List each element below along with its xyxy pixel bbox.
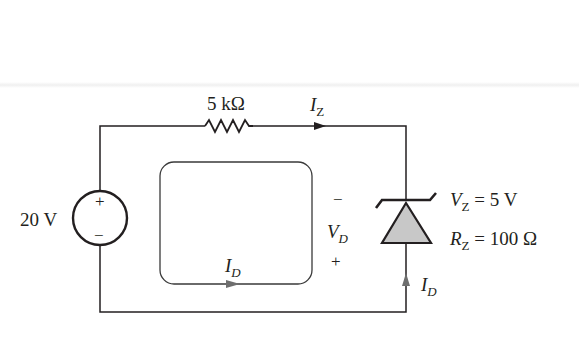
rz-symbol: R xyxy=(450,228,462,249)
vd-minus: − xyxy=(333,191,343,208)
vd-plus: + xyxy=(331,253,341,270)
id-branch-sub: D xyxy=(427,284,436,299)
top-left-wire xyxy=(100,126,205,190)
source-label: 20 V xyxy=(20,210,57,229)
rz-sub: Z xyxy=(462,238,470,253)
iz-sub: Z xyxy=(316,104,324,119)
vz-label: VZ = 5 V xyxy=(450,190,517,209)
zener-diode xyxy=(376,193,436,243)
id-loop-arrow-icon xyxy=(226,280,240,288)
vz-sub: Z xyxy=(462,199,470,214)
id-branch-arrow-icon xyxy=(402,273,410,286)
circuit-diagram: 20 V + − 5 kΩ IZ − VD + VZ = 5 V RZ = 10… xyxy=(0,0,579,338)
id-branch-label: ID xyxy=(421,275,437,294)
top-right-wire xyxy=(253,126,406,200)
vd-label: VD xyxy=(327,222,348,241)
rz-label: RZ = 100 Ω xyxy=(450,229,537,248)
iz-arrow-icon xyxy=(314,122,326,130)
zener-triangle xyxy=(382,203,431,243)
source-plus: + xyxy=(95,193,105,210)
id-loop-sub: D xyxy=(231,265,240,280)
id-loop-label: ID xyxy=(225,256,241,275)
rz-value: = 100 Ω xyxy=(474,228,537,249)
circuit-schematic xyxy=(0,0,579,338)
iz-label: IZ xyxy=(310,95,324,114)
vd-symbol: V xyxy=(327,221,339,242)
bottom-wire xyxy=(100,244,406,312)
resistor-5k xyxy=(205,120,253,132)
source-minus: − xyxy=(94,227,104,244)
vd-sub: D xyxy=(339,231,348,246)
vz-symbol: V xyxy=(450,189,462,210)
resistor-label: 5 kΩ xyxy=(207,94,245,113)
vz-value: = 5 V xyxy=(474,189,517,210)
